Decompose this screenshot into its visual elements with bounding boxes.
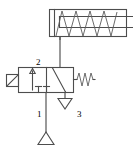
exhaust-triangle-icon	[58, 93, 72, 110]
cylinder-group	[50, 10, 134, 41]
schematic-drawing	[0, 0, 133, 153]
valve-left-position-flow-arrow-icon	[30, 69, 35, 91]
valve-lever-actuator-icon	[7, 75, 19, 87]
label-port-1: 1	[37, 104, 42, 120]
pneumatic-schematic-canvas: 2 1 3	[0, 0, 133, 153]
valve-port-stubs	[36, 87, 50, 93]
valve-right-position-diagonal-icon	[53, 68, 66, 93]
valve-spring-return-icon	[74, 73, 96, 86]
pressure-source-triangle-icon	[38, 132, 54, 145]
valve-group	[7, 68, 96, 93]
cylinder-return-spring-icon	[56, 11, 117, 36]
label-port-3: 3	[77, 104, 82, 120]
label-port-2: 2	[36, 52, 41, 68]
cylinder-piston-rod	[60, 17, 134, 28]
